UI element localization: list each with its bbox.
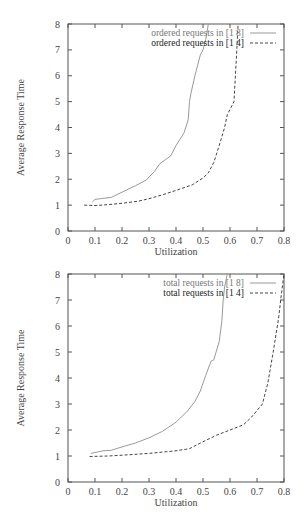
series-line	[92, 24, 208, 202]
y-tick-label: 5	[55, 347, 60, 358]
plot-frame	[68, 24, 284, 231]
chart-total-requests: 00.10.20.30.40.50.60.70.8012345678Utiliz…	[0, 250, 304, 527]
y-tick-label: 2	[55, 425, 60, 436]
series-line	[91, 274, 227, 453]
x-tick-label: 0.8	[278, 486, 291, 497]
y-tick-label: 1	[55, 200, 60, 211]
legend-entry: total requests in [1 4]	[163, 288, 244, 298]
x-tick-label: 0.1	[89, 235, 102, 246]
x-tick-label: 0.4	[170, 235, 183, 246]
x-tick-label: 0.5	[197, 486, 210, 497]
chart-svg: 00.10.20.30.40.50.60.70.8012345678Utiliz…	[0, 250, 304, 527]
y-tick-label: 1	[55, 451, 60, 462]
chart-ordered-requests: 00.10.20.30.40.50.60.70.8012345678Utiliz…	[0, 0, 304, 264]
y-tick-label: 3	[55, 399, 60, 410]
x-tick-label: 0.6	[224, 235, 237, 246]
x-tick-label: 0.1	[89, 486, 102, 497]
y-tick-label: 7	[55, 295, 60, 306]
x-tick-label: 0	[66, 486, 71, 497]
series-line	[90, 274, 284, 457]
chart-svg: 00.10.20.30.40.50.60.70.8012345678Utiliz…	[0, 0, 304, 264]
x-tick-label: 0.6	[224, 486, 237, 497]
y-tick-label: 3	[55, 148, 60, 159]
y-tick-label: 8	[55, 269, 60, 280]
series-line	[84, 24, 238, 206]
y-tick-label: 6	[55, 321, 60, 332]
y-tick-label: 4	[55, 373, 60, 384]
x-tick-label: 0.8	[278, 235, 291, 246]
y-tick-label: 8	[55, 19, 60, 30]
legend-entry: total requests in [1 8]	[163, 278, 244, 288]
x-tick-label: 0.4	[170, 486, 183, 497]
x-tick-label: 0.7	[251, 486, 264, 497]
y-tick-label: 5	[55, 96, 60, 107]
x-tick-label: 0.7	[251, 235, 264, 246]
x-tick-label: 0.3	[143, 486, 156, 497]
y-tick-label: 0	[55, 477, 60, 488]
y-tick-label: 7	[55, 44, 60, 55]
y-axis-label: Average Response Time	[15, 78, 26, 176]
x-tick-label: 0.5	[197, 235, 210, 246]
x-tick-label: 0.3	[143, 235, 156, 246]
x-tick-label: 0.2	[116, 486, 129, 497]
x-tick-label: 0	[66, 235, 71, 246]
legend-entry: ordered requests in [1 8]	[151, 28, 244, 38]
x-tick-label: 0.2	[116, 235, 129, 246]
y-tick-label: 0	[55, 226, 60, 237]
legend-entry: ordered requests in [1 4]	[151, 38, 244, 48]
y-tick-label: 6	[55, 70, 60, 81]
y-axis-label: Average Response Time	[15, 329, 26, 427]
y-tick-label: 2	[55, 174, 60, 185]
y-tick-label: 4	[55, 122, 60, 133]
x-axis-label: Utilization	[155, 497, 198, 508]
